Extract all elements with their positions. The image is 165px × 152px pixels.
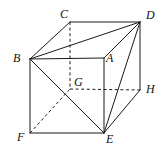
vertex-label-a: A [106,52,113,64]
vertex-label-b: B [13,52,20,64]
edge-B-A [30,58,104,59]
vertex-label-g: G [74,76,83,88]
vertex-label-f: F [17,131,24,143]
edge-G-H [70,89,140,90]
visible-edges-group [30,22,140,133]
edge-E-H [104,90,140,133]
edge-B-E [30,59,104,133]
geometry-figure: CDBAGHFE [0,0,165,152]
vertex-label-c: C [60,8,68,20]
edge-B-D [30,22,140,59]
edge-B-C [30,22,70,59]
edge-F-G [30,89,70,133]
edge-D-E [104,22,140,133]
vertex-label-e: E [106,133,113,145]
vertex-label-d: D [146,9,155,21]
vertex-label-h: H [146,83,155,95]
